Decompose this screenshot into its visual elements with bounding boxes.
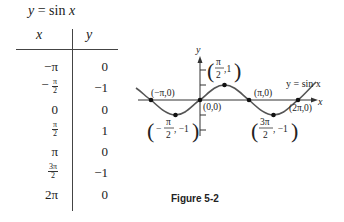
- point-two-pi: [296, 98, 301, 103]
- y-axis-arrow-icon: [198, 56, 203, 63]
- point-half-pi: [222, 83, 227, 88]
- paren-open: (: [147, 118, 154, 143]
- label-two-pi: (2π,0): [289, 103, 312, 114]
- label-half-pi: ( π 2 ,1 ): [207, 57, 241, 83]
- point-neg-half-pi: [173, 113, 178, 118]
- y-axis-label: y: [195, 44, 201, 55]
- paren-close: ): [234, 58, 241, 83]
- paren-open: (: [207, 58, 214, 83]
- sign: −: [156, 124, 161, 134]
- numerator: π: [216, 57, 221, 67]
- denominator: 2: [263, 130, 268, 140]
- x-axis-label: x: [317, 96, 323, 107]
- x-axis-arrow-icon: [311, 98, 318, 103]
- label-rest: ,1: [224, 64, 231, 74]
- numerator: 3π: [260, 117, 270, 127]
- paren-open: (: [251, 118, 258, 143]
- curve-label: y = sin x: [286, 78, 321, 89]
- point-three-half-pi: [271, 113, 276, 118]
- label-rest: , −1: [273, 124, 288, 134]
- sine-graph: y x y = sin x (−π,0) (0,0) (π,0) (2π,0) …: [0, 0, 344, 222]
- paren-close: ): [192, 118, 199, 143]
- label-three-half-pi: ( 3π 2 , −1 ): [251, 117, 298, 143]
- numerator: π: [166, 117, 171, 127]
- point-origin: [198, 98, 203, 103]
- figure-caption: Figure 5-2: [171, 193, 219, 204]
- paren-close: ): [291, 118, 298, 143]
- label-neg-pi: (−π,0): [151, 88, 175, 99]
- label-origin: (0,0): [203, 102, 221, 113]
- label-neg-half-pi: ( − π 2 , −1 ): [147, 117, 199, 143]
- denominator: 2: [216, 70, 221, 80]
- point-pi: [247, 98, 252, 103]
- label-rest: , −1: [174, 124, 189, 134]
- denominator: 2: [166, 130, 171, 140]
- point-neg-pi: [149, 98, 154, 103]
- label-pi: (π,0): [254, 88, 272, 99]
